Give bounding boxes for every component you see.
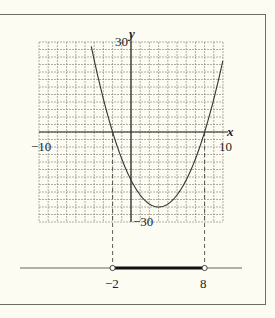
y-axis-label: y (127, 26, 135, 41)
y-max-label: 30 (115, 34, 128, 49)
parabola-curve (91, 46, 223, 207)
x-max-label: 10 (219, 139, 232, 154)
open-endpoint-left (110, 265, 115, 270)
interval-left-label: −2 (105, 276, 119, 291)
y-min-label: −30 (133, 214, 153, 229)
x-min-label: −10 (31, 139, 51, 154)
interval-right-label: 8 (200, 276, 207, 291)
open-endpoint-right (202, 265, 207, 270)
x-axis-label: x (226, 124, 234, 139)
graph-figure: 30 y x −10 10 −30 −2 8 (0, 0, 275, 318)
